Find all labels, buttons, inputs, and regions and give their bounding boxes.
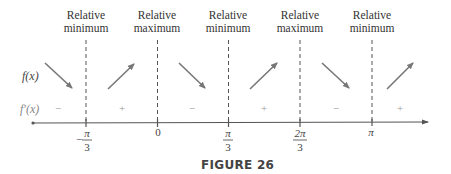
heading-relative-minimum-1-line1: Relative <box>67 9 105 21</box>
tick-label-pi-over-3: π 3 <box>223 127 233 153</box>
heading-relative-maximum-2-line2: maximum <box>277 22 324 34</box>
heading-relative-minimum-2-line1: Relative <box>209 9 247 21</box>
sign-interval-6: + <box>397 102 403 114</box>
heading-relative-maximum-1-line2: maximum <box>134 22 181 34</box>
sign-interval-4: + <box>261 102 267 114</box>
svg-text:3: 3 <box>297 141 303 153</box>
critical-point-headings: Relative minimum Relative maximum Relati… <box>64 9 395 34</box>
row-label-f-prime: f′(x) <box>20 102 39 116</box>
critical-point-dashed-lines <box>86 40 372 124</box>
heading-relative-minimum-2-line2: minimum <box>206 22 251 34</box>
sign-chart-figure: Relative minimum Relative maximum Relati… <box>0 0 451 174</box>
row-label-f: f(x) <box>22 69 39 83</box>
arrow-increasing-icon <box>250 63 277 89</box>
svg-text:2π: 2π <box>294 127 306 139</box>
arrow-decreasing-icon <box>322 63 349 88</box>
svg-text:−: − <box>76 133 82 145</box>
heading-relative-minimum-3-line1: Relative <box>353 9 391 21</box>
axis-tick-labels: − π 3 0 π 3 2π 3 π <box>76 126 374 153</box>
tick-label-2pi-over-3: 2π 3 <box>293 127 307 153</box>
sign-interval-2: + <box>119 102 125 114</box>
sign-interval-5: − <box>333 102 339 114</box>
heading-relative-maximum-2-line1: Relative <box>281 9 319 21</box>
arrow-increasing-icon <box>108 64 134 89</box>
svg-text:3: 3 <box>225 141 231 153</box>
svg-text:3: 3 <box>84 141 90 153</box>
heading-relative-maximum-1-line1: Relative <box>138 9 176 21</box>
sign-interval-1: − <box>55 102 61 114</box>
tick-label-zero: 0 <box>155 126 161 138</box>
arrow-decreasing-icon <box>45 63 72 88</box>
figure-caption: FIGURE 26 <box>201 158 274 172</box>
number-line-axis <box>33 122 428 123</box>
arrow-increasing-icon <box>387 63 413 89</box>
tick-label-pi: π <box>368 126 374 138</box>
svg-text:π: π <box>84 127 90 139</box>
heading-relative-minimum-3-line2: minimum <box>350 22 395 34</box>
tick-label-neg-pi-over-3: − π 3 <box>76 127 92 153</box>
svg-text:π: π <box>225 127 231 139</box>
sign-interval-3: − <box>189 102 195 114</box>
arrow-decreasing-icon <box>179 63 205 88</box>
heading-relative-minimum-1-line2: minimum <box>64 22 109 34</box>
